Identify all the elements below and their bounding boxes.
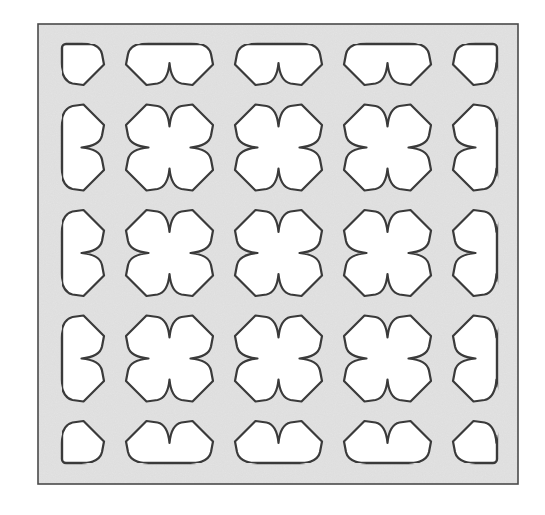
perforated-panel-diagram: [0, 0, 545, 515]
